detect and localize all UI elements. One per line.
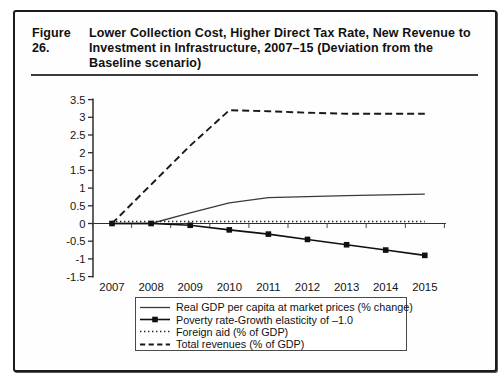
series-marker xyxy=(227,227,233,233)
legend-label: Total revenues (% of GDP) xyxy=(176,338,304,350)
legend-dotted-line-icon xyxy=(139,326,171,337)
series-marker xyxy=(344,242,350,248)
series-marker xyxy=(383,247,389,253)
legend-solid-marker-line-icon xyxy=(139,314,171,325)
x-tick-label: 2009 xyxy=(178,281,203,293)
series-marker xyxy=(422,253,428,259)
y-tick-label: 0 xyxy=(79,218,85,230)
x-tick-label: 2014 xyxy=(373,281,398,293)
legend-label: Poverty rate-Growth elasticity of –1.0 xyxy=(176,314,353,326)
x-tick-label: 2015 xyxy=(412,281,437,293)
series-marker xyxy=(305,237,311,243)
legend-item: Real GDP per capita at market prices (% … xyxy=(139,301,406,313)
legend-dashed-line-icon xyxy=(139,339,171,350)
y-tick-label: 2 xyxy=(79,147,85,159)
series-line-0 xyxy=(112,194,425,223)
series-line-1 xyxy=(112,224,425,256)
series-line-3 xyxy=(112,110,425,223)
legend-item: Foreign aid (% of GDP) xyxy=(139,326,406,338)
y-tick-label: -1 xyxy=(76,253,86,265)
x-tick-label: 2013 xyxy=(334,281,359,293)
x-tick-label: 2012 xyxy=(295,281,320,293)
legend-item: Poverty rate-Growth elasticity of –1.0 xyxy=(139,313,406,325)
figure-page: Figure 26. Lower Collection Cost, Higher… xyxy=(0,0,504,384)
legend-solid-line-icon xyxy=(139,302,171,313)
x-tick-label: 2011 xyxy=(256,281,281,293)
chart-legend: Real GDP per capita at market prices (% … xyxy=(135,297,407,351)
legend-sample-marker xyxy=(152,317,158,323)
x-tick-label: 2008 xyxy=(138,281,163,293)
legend-item: Total revenues (% of GDP) xyxy=(139,338,406,350)
x-tick-label: 2010 xyxy=(217,281,242,293)
series-marker xyxy=(187,222,193,228)
y-tick-label: 1.5 xyxy=(70,164,86,176)
legend-label: Real GDP per capita at market prices (% … xyxy=(176,301,413,313)
y-tick-label: -1.5 xyxy=(66,271,85,283)
y-tick-label: 2.5 xyxy=(70,129,86,141)
legend-label: Foreign aid (% of GDP) xyxy=(176,326,288,338)
y-tick-label: 3.5 xyxy=(70,94,86,106)
y-tick-label: 1 xyxy=(79,182,85,194)
y-tick-label: -0.5 xyxy=(66,235,85,247)
y-tick-label: 3 xyxy=(79,111,85,123)
y-tick-label: 0.5 xyxy=(70,200,86,212)
x-tick-label: 2007 xyxy=(99,281,124,293)
series-marker xyxy=(266,231,272,237)
